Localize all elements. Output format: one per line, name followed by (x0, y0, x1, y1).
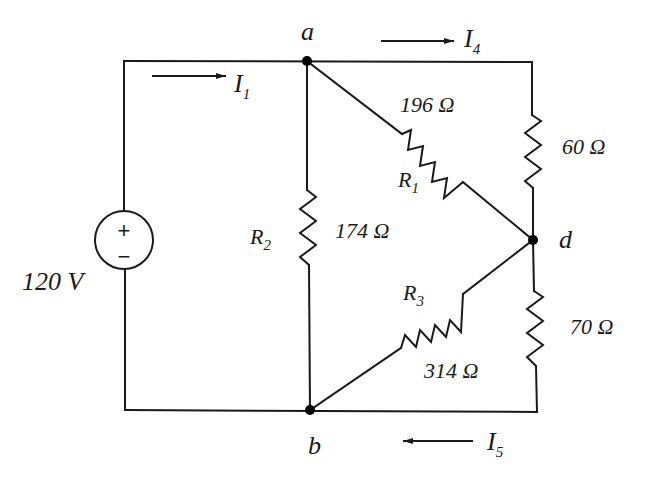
source-voltage-label: 120 V (22, 267, 87, 296)
node-b-label: b (308, 431, 321, 460)
wire-r3-d (463, 240, 533, 294)
resistor-60: 60 Ω (525, 115, 606, 188)
resistor-r2-zigzag-icon (300, 190, 316, 265)
wire-r2-b (309, 265, 310, 410)
r3-value-label: 314 Ω (423, 358, 479, 383)
current-i1: I1 (153, 69, 250, 102)
resistor-r3: R3 314 Ω (401, 280, 479, 383)
wire-r1-d (463, 182, 533, 240)
resistor-r2: R2 174 Ω (249, 190, 390, 265)
current-i1-label: I1 (233, 69, 250, 102)
r2-name-label: R2 (249, 224, 271, 253)
node-b-dot-icon (305, 405, 315, 415)
wire-d-70 (533, 240, 534, 291)
current-i4-label: I4 (463, 24, 481, 57)
r1-name-label: R1 (397, 167, 419, 196)
r3-name-label: R3 (402, 280, 424, 309)
node-d-label: d (559, 225, 573, 254)
resistor-r1: 196 Ω R1 (397, 92, 463, 198)
resistor-70: 70 Ω (527, 291, 614, 366)
wire-bottom (125, 410, 537, 412)
circuit-diagram: + − 120 V R2 174 Ω 60 Ω 70 Ω 196 Ω R1 R3… (0, 0, 647, 482)
r1-value-label: 196 Ω (400, 92, 455, 117)
r60-value-label: 60 Ω (562, 134, 606, 159)
r70-value-label: 70 Ω (570, 314, 614, 339)
resistor-70-zigzag-icon (527, 291, 543, 366)
wire-70-bottom (536, 366, 537, 412)
node-a-dot-icon (302, 56, 312, 66)
current-i5: I5 (404, 427, 504, 460)
wire-top (124, 61, 532, 62)
node-a-label: a (301, 17, 314, 46)
resistor-60-zigzag-icon (525, 115, 541, 188)
current-i5-label: I5 (486, 427, 504, 460)
wire-a-r1 (307, 61, 402, 134)
wire-b-r3 (310, 348, 401, 410)
voltage-source: + − 120 V (22, 211, 153, 296)
source-minus-sign: − (118, 244, 131, 269)
source-plus-sign: + (118, 218, 131, 243)
node-d-dot-icon (528, 235, 538, 245)
r2-value-label: 174 Ω (335, 218, 390, 243)
current-i4: I4 (382, 24, 481, 57)
